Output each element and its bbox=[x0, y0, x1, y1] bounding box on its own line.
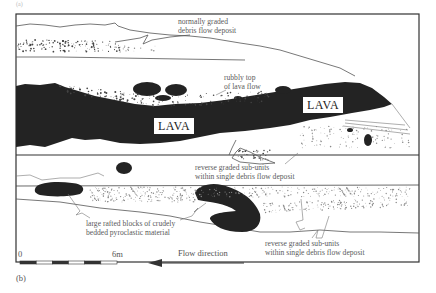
clast-dot bbox=[358, 195, 359, 196]
clast-dot bbox=[128, 199, 129, 200]
clast-dot bbox=[263, 203, 264, 204]
clast-dot bbox=[20, 43, 21, 44]
clast-dot bbox=[383, 188, 384, 189]
clast-dot bbox=[331, 202, 332, 203]
clast-dot bbox=[191, 193, 192, 194]
clast-dot bbox=[348, 190, 349, 191]
clast-dot bbox=[306, 190, 307, 191]
clast-dot bbox=[68, 45, 69, 46]
clast-dot bbox=[406, 189, 407, 190]
clast-dot bbox=[151, 49, 152, 50]
clast-dot bbox=[106, 45, 107, 46]
clast-dot bbox=[211, 195, 212, 196]
clast-dot bbox=[109, 43, 110, 44]
clast-dot bbox=[392, 196, 393, 197]
clast-dot bbox=[318, 194, 319, 195]
clast-dot bbox=[303, 126, 305, 128]
clast-dot bbox=[359, 203, 360, 204]
clast-dot bbox=[340, 201, 341, 202]
clast-dot bbox=[145, 194, 146, 195]
clast-dot bbox=[325, 204, 326, 205]
clast-dot bbox=[185, 190, 186, 191]
clast-dot bbox=[316, 191, 317, 192]
clast-dot bbox=[317, 200, 318, 201]
clast-dot bbox=[103, 196, 104, 197]
clast-dot bbox=[341, 205, 342, 206]
clast-dot bbox=[71, 43, 72, 44]
clast-dot bbox=[406, 201, 407, 202]
clast-dot bbox=[185, 100, 186, 101]
clast-dot bbox=[153, 193, 155, 195]
clast-dot bbox=[380, 207, 381, 208]
clast-dot bbox=[29, 44, 30, 45]
clast-dot bbox=[373, 198, 374, 199]
lava-flow-body bbox=[16, 82, 392, 147]
clast-dot bbox=[262, 153, 264, 155]
clast-dot bbox=[219, 192, 220, 193]
clast-dot bbox=[303, 192, 304, 193]
clast-dot bbox=[161, 194, 162, 195]
clast-dot bbox=[408, 140, 409, 141]
clast-dot bbox=[201, 190, 202, 191]
clast-dot bbox=[267, 151, 268, 152]
clast-dot bbox=[290, 194, 291, 195]
scale-bar: 0 6m bbox=[18, 249, 123, 264]
clast-dot bbox=[292, 209, 293, 210]
clast-dot bbox=[306, 202, 307, 203]
clast-dot bbox=[321, 204, 322, 205]
lava-block bbox=[347, 128, 353, 132]
clast-dot bbox=[345, 190, 346, 191]
clast-dot bbox=[175, 186, 176, 187]
clast-dot bbox=[317, 205, 318, 206]
clast-dot bbox=[65, 42, 67, 44]
clast-dot bbox=[120, 196, 121, 197]
panel-label-a-remnant: (a) bbox=[16, 1, 23, 8]
clast-dot bbox=[269, 203, 271, 205]
clast-dot bbox=[317, 187, 318, 188]
clast-dot bbox=[390, 198, 391, 199]
clast-dot bbox=[135, 93, 136, 94]
clast-dot bbox=[180, 200, 181, 201]
clast-dot bbox=[46, 44, 47, 45]
clast-dot bbox=[139, 198, 140, 199]
clast-dot bbox=[39, 44, 41, 46]
clast-dot bbox=[144, 196, 145, 197]
clast-dot bbox=[347, 188, 348, 189]
clast-dot bbox=[377, 192, 378, 193]
clast-dot bbox=[60, 45, 62, 47]
clast-dot bbox=[116, 199, 117, 200]
clast-dot bbox=[99, 190, 100, 191]
clast-dot bbox=[115, 43, 116, 44]
clast-dot bbox=[385, 147, 386, 148]
clast-dot bbox=[272, 210, 273, 211]
clast-dot bbox=[385, 130, 387, 132]
clast-dot bbox=[197, 196, 198, 197]
clast-dot bbox=[354, 193, 355, 194]
clast-dot bbox=[150, 195, 151, 196]
clast-dot bbox=[246, 96, 248, 98]
clast-dot bbox=[339, 200, 340, 201]
clast-dot bbox=[333, 200, 334, 201]
clast-dot bbox=[376, 138, 377, 139]
clast-dot bbox=[329, 191, 330, 192]
clast-dot bbox=[142, 105, 143, 106]
clast-dot bbox=[168, 197, 169, 198]
clast-dot bbox=[113, 190, 114, 191]
clast-dot bbox=[62, 44, 63, 45]
clast-dot bbox=[100, 89, 102, 91]
clast-dot bbox=[192, 201, 193, 202]
clast-dot bbox=[178, 198, 179, 199]
clast-dot bbox=[141, 195, 142, 196]
clast-dot bbox=[194, 189, 195, 190]
clast-dot bbox=[60, 50, 61, 51]
clast-dot bbox=[321, 133, 322, 134]
clast-dot bbox=[73, 88, 74, 89]
clast-dot bbox=[375, 139, 376, 140]
clast-dot bbox=[341, 137, 342, 138]
clast-dot bbox=[158, 98, 159, 99]
clast-dot bbox=[182, 187, 183, 188]
clast-dot bbox=[145, 192, 146, 193]
clast-dot bbox=[155, 46, 156, 47]
clast-dot bbox=[186, 198, 187, 199]
clast-dot bbox=[32, 41, 33, 42]
